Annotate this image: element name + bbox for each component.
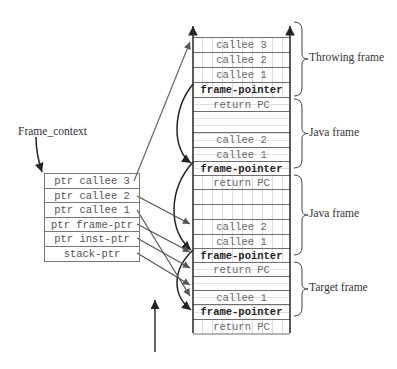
fp-chain-arrow: [177, 84, 193, 163]
frame-context-row: ptr inst-ptr: [45, 232, 139, 247]
frame-label: Throwing frame: [309, 51, 384, 63]
fp-chain-arrow: [177, 250, 193, 310]
frame-brace: [294, 99, 308, 168]
frame-label: Target frame: [309, 281, 368, 293]
instptr-arrow: [137, 238, 190, 268]
frame-context-label: Frame_context: [18, 125, 87, 137]
frame-context-row: ptr callee 2: [45, 189, 139, 204]
frame-context-row: stack-ptr: [45, 247, 139, 262]
frame-brace: [294, 262, 308, 316]
frameptr-arrow: [137, 224, 190, 252]
frame-context-arrow: [36, 137, 42, 172]
callee3-arrow: [134, 42, 190, 181]
stackptr-arrow: [137, 253, 190, 285]
frame-context-row: ptr callee 1: [45, 203, 139, 218]
frame-context-row: ptr frame-ptr: [45, 218, 139, 233]
callee2-arrow: [137, 196, 190, 224]
frame-label: Java frame: [309, 126, 359, 138]
frame-context-row: ptr callee 3: [45, 174, 139, 189]
frame-label: Java frame: [309, 207, 359, 219]
fp-chain-arrow: [174, 162, 193, 250]
frame-brace: [294, 22, 308, 96]
frame-context-box: ptr callee 3ptr callee 2ptr callee 1ptr …: [44, 173, 140, 262]
frame-brace: [294, 175, 308, 255]
